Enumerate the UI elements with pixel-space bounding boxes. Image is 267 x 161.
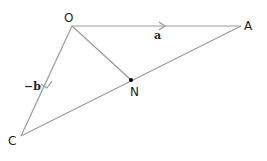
label-a: A — [244, 20, 252, 32]
label-o: O — [64, 12, 73, 24]
label-n: N — [130, 86, 139, 98]
point-n-dot — [129, 78, 133, 82]
label-c: C — [8, 135, 16, 147]
vector-label-minus-b: −b — [24, 81, 41, 92]
vector-diagram: O A C N a −b — [0, 0, 267, 161]
vector-label-a: a — [154, 30, 161, 41]
segment-on — [72, 26, 131, 80]
